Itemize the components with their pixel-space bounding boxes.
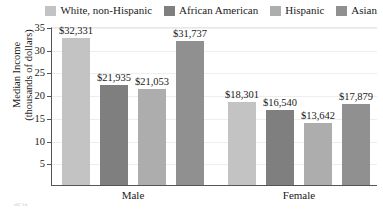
legend-label: African American	[179, 5, 258, 16]
bar-series-layer: $32,331$21,935$21,053$31,737$18,301$16,5…	[52, 28, 377, 185]
y-axis-tick-label: 10	[35, 136, 46, 147]
legend-item-african-american[interactable]: African American	[164, 5, 258, 16]
footnote-artifact: tâ€˜fit	[14, 202, 28, 208]
x-axis-group-label: Female	[283, 189, 315, 201]
legend-label: White, non-Hispanic	[60, 5, 152, 16]
y-axis-tick-label: 20	[35, 91, 46, 102]
y-axis-tick-label: 5	[40, 159, 45, 170]
legend-label: Hispanic	[285, 5, 324, 16]
bar-value-label: $18,301	[225, 89, 259, 100]
bar-value-label: $21,053	[135, 76, 169, 87]
bar-value-label: $31,737	[173, 28, 207, 39]
legend-item-asian[interactable]: Asian	[336, 5, 377, 16]
bar-value-label: $17,879	[339, 91, 373, 102]
bar[interactable]: $32,331	[62, 38, 90, 185]
bar-value-label: $32,331	[59, 25, 93, 36]
y-axis-tick-label: 25	[35, 68, 46, 79]
bar[interactable]: $21,935	[100, 85, 128, 185]
legend-swatch-icon	[270, 6, 281, 16]
y-axis-tick-label: 15	[35, 114, 46, 125]
legend-label: Asian	[351, 5, 377, 16]
bar[interactable]: $31,737	[176, 41, 204, 185]
bar-chart: White, non-Hispanic African American His…	[0, 0, 383, 213]
legend-swatch-icon	[336, 6, 347, 16]
plot-area: 5101520253035 $32,331$21,935$21,053$31,7…	[51, 27, 377, 186]
bar[interactable]: $18,301	[228, 102, 256, 185]
bar-value-label: $13,642	[301, 110, 335, 121]
x-axis-group-label: Male	[122, 189, 145, 201]
bar[interactable]: $21,053	[138, 89, 166, 185]
legend-swatch-icon	[45, 6, 56, 16]
y-axis-tick-label: 35	[35, 23, 46, 34]
bar[interactable]: $17,879	[342, 104, 370, 185]
bar[interactable]: $13,642	[304, 123, 332, 185]
bar-value-label: $16,540	[263, 97, 297, 108]
legend-item-hispanic[interactable]: Hispanic	[270, 5, 324, 16]
chart-legend: White, non-Hispanic African American His…	[0, 2, 383, 19]
y-axis-title-line-1: Median Income	[11, 29, 24, 121]
legend-item-white-non-hispanic[interactable]: White, non-Hispanic	[45, 5, 152, 16]
bar[interactable]: $16,540	[266, 110, 294, 185]
bar-value-label: $21,935	[97, 72, 131, 83]
y-axis-tick-label: 30	[35, 45, 46, 56]
legend-swatch-icon	[164, 6, 175, 16]
